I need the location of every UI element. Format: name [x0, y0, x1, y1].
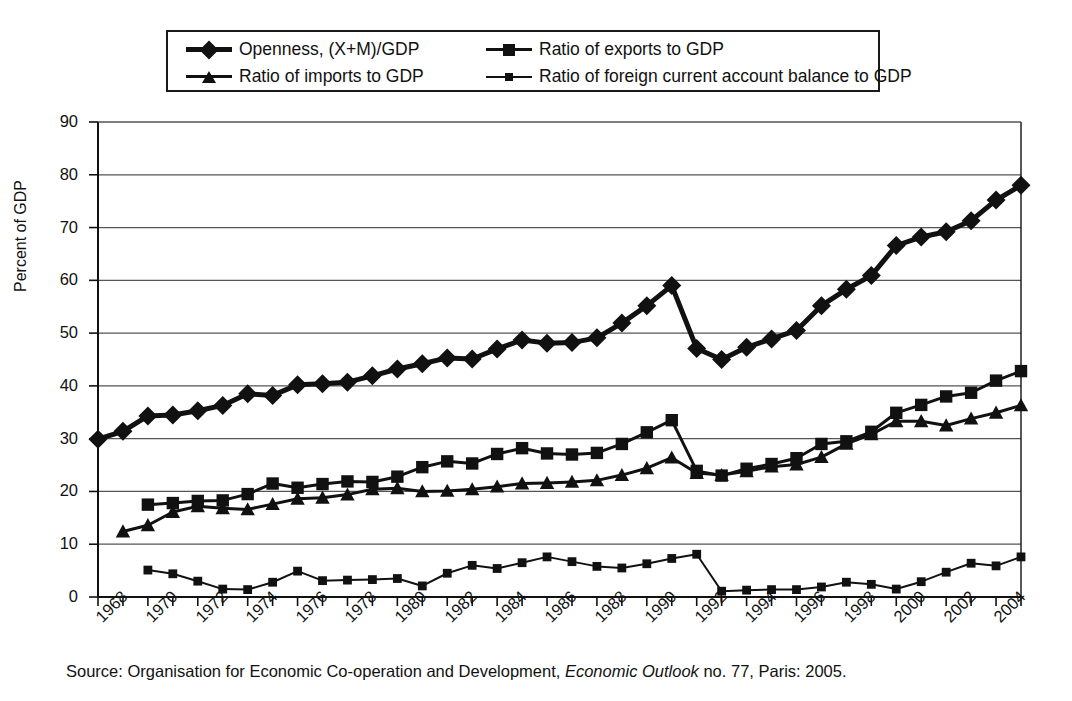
y-tick-label: 10 [44, 534, 78, 553]
series-2 [116, 398, 1028, 537]
y-tick-label: 30 [44, 429, 78, 448]
y-tick-label: 70 [44, 218, 78, 237]
y-tick-label: 90 [44, 112, 78, 131]
y-tick-label: 40 [44, 376, 78, 395]
y-tick-label: 0 [44, 587, 78, 606]
y-tick-label: 60 [44, 270, 78, 289]
y-tick-label: 20 [44, 481, 78, 500]
plot-frame [98, 122, 1021, 597]
y-tick-label: 50 [44, 323, 78, 342]
source-prefix: Source: Organisation for Economic Co-ope… [66, 662, 565, 680]
plot-area: Percent of GDP 0102030405060708090 19681… [0, 0, 1072, 701]
y-tick-label: 80 [44, 165, 78, 184]
series-3 [143, 550, 1025, 596]
source-italic: Economic Outlook [565, 662, 699, 680]
series-1 [142, 365, 1028, 511]
grid-lines [89, 122, 1021, 597]
y-axis-title: Percent of GDP [12, 180, 30, 292]
series-0 [89, 176, 1031, 449]
figure-openness-chart: Openness, (X+M)/GDP Ratio of exports to … [0, 0, 1072, 701]
source-note: Source: Organisation for Economic Co-ope… [66, 662, 847, 681]
source-suffix: no. 77, Paris: 2005. [699, 662, 847, 680]
